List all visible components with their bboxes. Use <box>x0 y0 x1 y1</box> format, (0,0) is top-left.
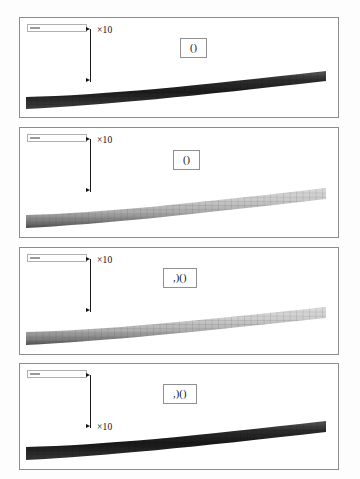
quantity-title-box-3: ,)() <box>163 268 197 288</box>
colorbar-tick-labels-3 <box>41 257 84 259</box>
quantity-title-box-1: () <box>180 38 207 58</box>
colorbar-tick-labels-1 <box>41 27 84 29</box>
max-value-label-3: ×10 <box>97 253 112 265</box>
colorbar-1 <box>30 27 40 29</box>
colorbar-2 <box>30 137 40 139</box>
quantity-title-box-4: ,)() <box>163 384 197 404</box>
stress-contour-panel-3: ×10 ,)() <box>19 247 339 355</box>
max-arrow-4 <box>86 373 90 377</box>
stress-contour-panel-2: ×10 () <box>19 127 339 238</box>
stress-contour-panel-4: ×10 ,)() <box>19 363 339 470</box>
quantity-title-box-2: () <box>173 150 200 170</box>
max-value-label-2: ×10 <box>97 133 112 145</box>
colorbar-3 <box>30 257 40 259</box>
max-arrow-2 <box>86 137 90 141</box>
beam-contour-2 <box>24 185 334 235</box>
colorbar-legend-4 <box>27 370 87 378</box>
colorbar-tick-labels-2 <box>41 137 84 139</box>
colorbar-tick-labels-4 <box>41 373 84 375</box>
beam-contour-3 <box>24 304 334 352</box>
beam-contour-1 <box>24 69 334 115</box>
colorbar-legend-2 <box>27 134 87 142</box>
max-arrow-1 <box>86 27 90 31</box>
colorbar-legend-1 <box>27 24 87 32</box>
stress-contour-panel-1: ×10 () <box>19 17 339 118</box>
colorbar-4 <box>30 373 40 375</box>
figure-sheet: ×10 () <box>0 0 360 479</box>
colorbar-legend-3 <box>27 254 87 262</box>
beam-contour-4 <box>24 419 334 467</box>
max-arrow-3 <box>86 257 90 261</box>
max-value-label-1: ×10 <box>97 23 112 35</box>
